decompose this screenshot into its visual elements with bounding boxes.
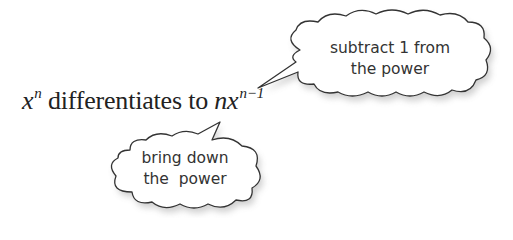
formula-base-right: x <box>227 86 238 115</box>
formula-exponent-left: n <box>34 85 41 101</box>
callout-bring-down-text: bring down the power <box>125 148 245 190</box>
formula-middle-text: differentiates to <box>42 86 215 115</box>
callout-subtract-text: subtract 1 from the power <box>310 38 470 80</box>
callout-bring-down-line2: the power <box>125 169 245 190</box>
formula-coefficient: n <box>214 86 227 115</box>
power-rule-formula: xn differentiates to nxn−1 <box>22 86 264 116</box>
formula-base-left: x <box>22 86 33 115</box>
callout-subtract-line2: the power <box>310 59 470 80</box>
callout-subtract-line1: subtract 1 from <box>310 38 470 59</box>
callout-bring-down-line1: bring down <box>125 148 245 169</box>
formula-exponent-right: n−1 <box>239 85 264 101</box>
